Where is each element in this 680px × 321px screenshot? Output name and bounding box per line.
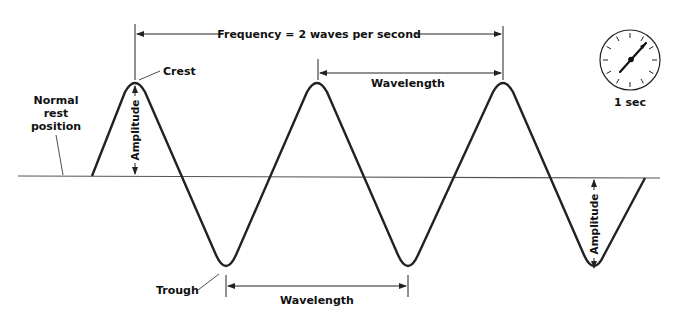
rest-label-line1: Normal [34, 94, 79, 107]
clock-caption: 1 sec [614, 96, 646, 109]
crest-label: Crest [163, 65, 196, 78]
wave-diagram: Frequency = 2 waves per second Wavelengt… [0, 0, 680, 321]
trough-label: Trough [156, 284, 199, 297]
rest-position-line [18, 176, 660, 178]
wave-curve [92, 83, 645, 266]
amplitude-right-annotation: Amplitude [588, 180, 600, 268]
frequency-label: Frequency = 2 waves per second [217, 28, 421, 41]
amplitude-left-label: Amplitude [129, 100, 141, 161]
rest-label-line2: rest [44, 107, 69, 120]
amplitude-right-label: Amplitude [588, 194, 600, 255]
rest-position-annotation: Normal rest position [31, 94, 81, 175]
wavelength-bottom-annotation: Wavelength [226, 275, 408, 307]
wavelength-bottom-label: Wavelength [280, 294, 354, 307]
trough-pointer [198, 274, 219, 290]
wavelength-top-label: Wavelength [371, 77, 445, 90]
amplitude-left-annotation: Amplitude [129, 86, 141, 174]
rest-label-line3: position [31, 120, 81, 133]
crest-pointer [139, 71, 160, 80]
stopwatch-clock-icon [600, 30, 660, 90]
wavelength-top-annotation: Wavelength [318, 59, 501, 90]
